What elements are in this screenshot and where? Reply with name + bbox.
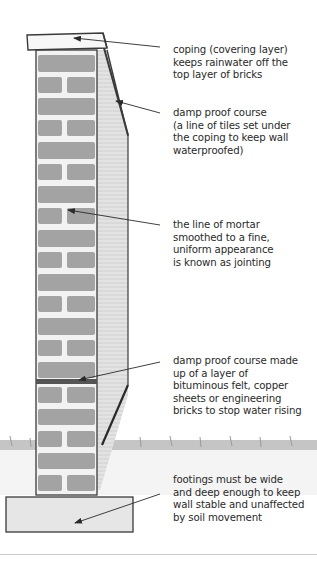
- damp-proof-course-bottom-label: damp proof course made up of a layer of …: [173, 355, 302, 418]
- coping-label: coping (covering layer) keeps rainwater …: [173, 44, 288, 82]
- footing: [6, 497, 133, 532]
- brick-face: [36, 50, 97, 495]
- divider: [0, 554, 317, 555]
- coping-stone: [27, 33, 107, 50]
- damp-proof-course-top-label: damp proof course (a line of tiles set u…: [173, 107, 290, 157]
- footings-label: footings must be wide and deep enough to…: [173, 474, 304, 524]
- dpc-felt-band: [36, 379, 97, 384]
- jointing-label: the line of mortar smoothed to a fine, u…: [173, 219, 273, 269]
